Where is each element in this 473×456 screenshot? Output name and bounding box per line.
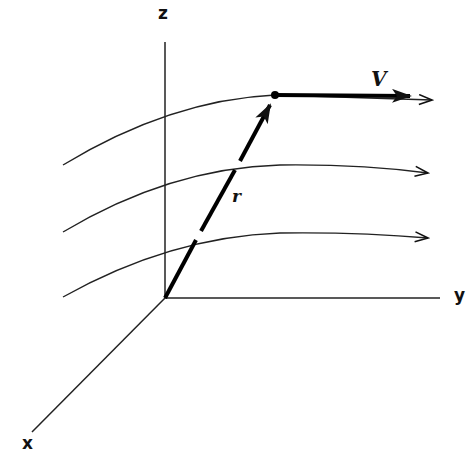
diagram-svg (0, 0, 473, 456)
y-axis-label: y (454, 285, 465, 305)
velocity-vector-label: V (371, 67, 387, 91)
streamlines (63, 95, 432, 297)
position-vector-label: r (232, 186, 241, 206)
x-axis (32, 298, 165, 432)
x-axis-label: x (22, 433, 33, 453)
diagram-canvas: z y x r V (0, 0, 473, 456)
position-vector-r (165, 105, 270, 298)
z-axis-label: z (158, 3, 168, 23)
velocity-vector-v (271, 91, 410, 99)
streamline-top (63, 95, 432, 165)
streamline-middle (63, 165, 428, 232)
streamline-bottom (63, 233, 428, 297)
